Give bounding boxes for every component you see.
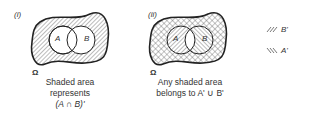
set-b-label-i: B — [84, 34, 89, 43]
diagram-i-label: (i) — [14, 10, 21, 19]
set-a-label-ii: A — [173, 34, 178, 43]
caption-i: Shaded area represents (A ∩ B)' — [30, 77, 110, 110]
universe-label-i: Ω — [32, 68, 38, 77]
diagram-ii-label: (ii) — [148, 10, 157, 19]
caption-i-line2: represents — [30, 88, 110, 99]
caption-ii: Any shaded area belongs to A' ∪ B' — [140, 77, 240, 99]
caption-i-line3: (A ∩ B)' — [30, 99, 110, 110]
universe-label-ii: Ω — [150, 68, 156, 77]
caption-ii-line2: belongs to A' ∪ B' — [140, 88, 240, 99]
set-b-label-ii: B — [202, 34, 207, 43]
legend-swatch-a-prime — [267, 48, 277, 53]
legend-swatch-b-prime — [267, 27, 277, 32]
caption-i-line1: Shaded area — [30, 77, 110, 88]
legend-label-a-prime: A' — [281, 46, 288, 55]
diagram-ii — [150, 13, 227, 65]
caption-ii-line1: Any shaded area — [140, 77, 240, 88]
diagram-i — [32, 13, 109, 65]
legend-label-b-prime: B' — [281, 25, 288, 34]
set-a-label-i: A — [55, 34, 60, 43]
